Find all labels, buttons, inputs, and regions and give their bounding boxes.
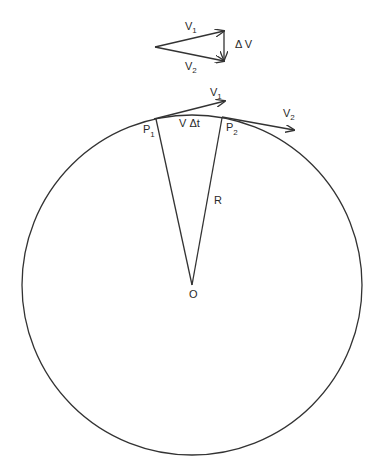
radius-op1 <box>156 119 192 285</box>
p2-label: P2 <box>226 121 238 137</box>
center-label: O <box>189 288 198 300</box>
v2-label: V2 <box>185 60 197 75</box>
tangent-v2-label: V2 <box>283 107 295 122</box>
delta-v-label: Δ V <box>235 38 253 50</box>
v2-vector <box>155 47 224 61</box>
v1-label: V1 <box>185 20 197 35</box>
vector-triangle: V1 V2 Δ V <box>155 20 253 75</box>
radius-label: R <box>214 194 222 206</box>
diagram-canvas: V1 V2 Δ V V1 V2 P1 P2 V Δt R O <box>0 0 384 475</box>
arc-label: V Δt <box>179 117 200 129</box>
p1-label: P1 <box>143 123 155 139</box>
v1-vector <box>155 31 224 47</box>
tangent-v1-label: V1 <box>210 86 222 101</box>
